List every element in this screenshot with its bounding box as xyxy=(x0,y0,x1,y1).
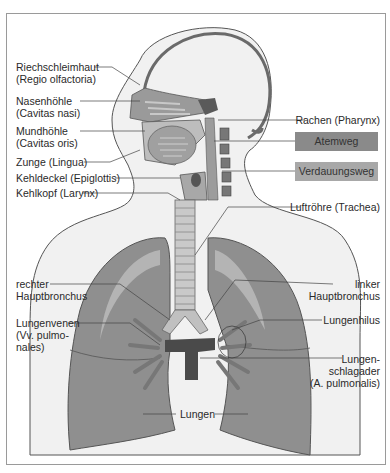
label-text: Lungen- xyxy=(310,353,380,365)
legend-atemweg: Atemweg xyxy=(295,132,378,151)
label-text: (Cavitas nasi) xyxy=(16,107,80,119)
label-lungenschlagader: Lungen- schlagader (A. pulmonalis) xyxy=(310,353,380,389)
label-text: Lungenvenen xyxy=(16,317,80,329)
label-riechschleimhaut: Riechschleimhaut (Regio olfactoria) xyxy=(16,61,99,85)
label-luftroehre: Luftröhre (Trachea) xyxy=(290,201,380,213)
label-text: Nasenhöhle xyxy=(16,95,80,107)
label-lungen: Lungen xyxy=(180,408,215,420)
label-linker-hauptbronchus: linker Hauptbronchus xyxy=(309,278,380,302)
label-text: Hauptbronchus xyxy=(16,290,87,302)
label-text: Mundhöhle xyxy=(16,125,78,137)
label-nasenhoehle: Nasenhöhle (Cavitas nasi) xyxy=(16,95,80,119)
label-text: nales) xyxy=(16,341,80,353)
label-text: (Vv. pulmo- xyxy=(16,329,80,341)
label-text: Riechschleimhaut xyxy=(16,61,99,73)
label-kehldeckel: Kehldeckel (Epiglottis) xyxy=(16,172,120,184)
trachea xyxy=(175,200,195,310)
label-lungenhilus: Lungenhilus xyxy=(323,314,380,326)
label-text: linker xyxy=(309,278,380,290)
label-text: Hauptbronchus xyxy=(309,290,380,302)
label-rechter-hauptbronchus: rechter Hauptbronchus xyxy=(16,278,87,302)
label-rachen: Rachen (Pharynx) xyxy=(295,114,380,126)
label-mundhoehle: Mundhöhle (Cavitas oris) xyxy=(16,125,78,149)
label-lungenvenen: Lungenvenen (Vv. pulmo- nales) xyxy=(16,317,80,353)
label-zunge: Zunge (Lingua) xyxy=(16,156,87,168)
label-text: schlagader xyxy=(310,365,380,377)
label-text: (Cavitas oris) xyxy=(16,137,78,149)
label-text: (A. pulmonalis) xyxy=(310,377,380,389)
label-kehlkopf: Kehlkopf (Larynx) xyxy=(16,187,98,199)
label-text: (Regio olfactoria) xyxy=(16,73,99,85)
label-text: rechter xyxy=(16,278,87,290)
legend-verdauungsweg: Verdauungsweg xyxy=(295,162,378,181)
tongue xyxy=(148,126,196,164)
